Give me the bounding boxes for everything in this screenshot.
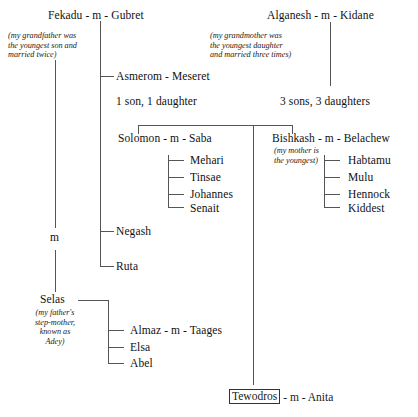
connector-selas-children-spine: [108, 300, 109, 363]
note-grandmother: (my grandmother was the youngest daughte…: [210, 31, 330, 60]
person-bishkash-belachew: Bishkash - m - Belachew: [272, 132, 390, 145]
subject-tewodros-boxed: Tewodros: [229, 389, 280, 404]
person-kiddest: Kiddest: [348, 202, 384, 215]
person-mulu: Mulu: [348, 171, 373, 184]
connector-to-elsa: [108, 347, 124, 348]
person-johannes: Johannes: [190, 188, 233, 201]
connector-to-asmerom: [100, 76, 114, 77]
connector-second-marriage-upper: [55, 60, 56, 228]
connector-bishkash-children-spine: [324, 155, 325, 207]
connector-to-mulu: [324, 177, 340, 178]
connector-solomon-children-spine: [168, 155, 169, 207]
person-almaz-taages: Almaz - m - Taages: [130, 324, 222, 337]
note-grandfather: (my grandfather was the youngest son and…: [8, 31, 103, 60]
person-fekadu-gubret: Fekadu - m - Gubret: [48, 9, 144, 22]
person-asmerom-meseret: Asmerom - Meseret: [116, 70, 210, 83]
connector-sibling-bracket: [138, 125, 293, 126]
connector-to-johannes: [168, 194, 184, 195]
second-marriage-marker: m: [50, 231, 59, 243]
person-senait: Senait: [190, 202, 219, 215]
person-mehari: Mehari: [190, 154, 224, 167]
connector-to-hennock: [324, 194, 340, 195]
connector-to-ruta: [100, 266, 114, 267]
person-hennock: Hennock: [348, 188, 390, 201]
person-negash: Negash: [116, 225, 151, 238]
note-mother-youngest: (my mother is the youngest): [274, 146, 324, 165]
label-one-son-one-daughter: 1 son, 1 daughter: [116, 95, 197, 108]
connector-to-habtamu: [324, 160, 340, 161]
connector-to-tinsae: [168, 177, 184, 178]
person-alganesh-kidane: Alganesh - m - Kidane: [267, 9, 374, 22]
tewodros-spouse-suffix: - m - Anita: [283, 391, 333, 403]
note-step-mother: (my father's step-mother, known as Adey): [24, 308, 86, 346]
person-solomon-saba: Solomon - m - Saba: [118, 132, 212, 145]
connector-selas-to-spine: [78, 300, 108, 301]
connector-to-abel: [108, 363, 124, 364]
person-habtamu: Habtamu: [348, 154, 391, 167]
person-tewodros-row: Tewodros - m - Anita: [229, 389, 333, 404]
person-ruta: Ruta: [116, 260, 138, 273]
connector-to-almaz: [108, 330, 124, 331]
connector-second-marriage-lower: [55, 250, 56, 292]
connector-to-mehari: [168, 160, 184, 161]
person-selas: Selas: [40, 293, 65, 306]
label-three-sons-three-daughters: 3 sons, 3 daughters: [280, 95, 370, 108]
person-elsa: Elsa: [130, 341, 150, 354]
person-tinsae: Tinsae: [190, 171, 221, 184]
person-abel: Abel: [130, 357, 153, 370]
family-tree-diagram: Fekadu - m - Gubret Alganesh - m - Kidan…: [0, 0, 418, 417]
connector-to-tewodros: [253, 125, 254, 385]
connector-to-negash: [100, 231, 114, 232]
connector-to-kiddest: [324, 207, 340, 208]
connector-to-senait: [168, 207, 184, 208]
connector-alganesh-trunk: [330, 22, 331, 86]
